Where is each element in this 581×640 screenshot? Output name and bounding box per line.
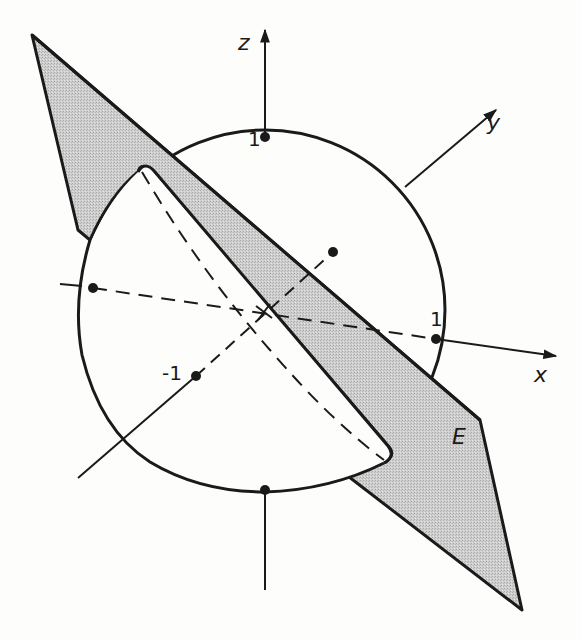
diagram-canvas: z 1 y x 1 -1 E	[0, 0, 581, 640]
y-tick-label: -1	[162, 361, 182, 385]
y-axis-outer	[405, 110, 496, 187]
y-axis-label: y	[486, 110, 501, 135]
sphere-plane-figure: z 1 y x 1 -1 E	[0, 0, 581, 640]
z-axis-label: z	[237, 30, 250, 55]
point-x-negative	[88, 283, 98, 293]
point-z-positive	[260, 132, 270, 142]
x-tick-label: 1	[430, 307, 443, 331]
plane-label: E	[452, 424, 466, 449]
point-z-negative	[260, 485, 270, 495]
x-axis-left-stub	[60, 284, 82, 286]
point-y-positive	[328, 247, 338, 257]
x-axis-outer	[436, 339, 556, 356]
point-y-negative	[191, 371, 201, 381]
x-axis-label: x	[533, 362, 548, 387]
z-tick-label: 1	[248, 127, 261, 151]
point-x-positive	[431, 334, 441, 344]
